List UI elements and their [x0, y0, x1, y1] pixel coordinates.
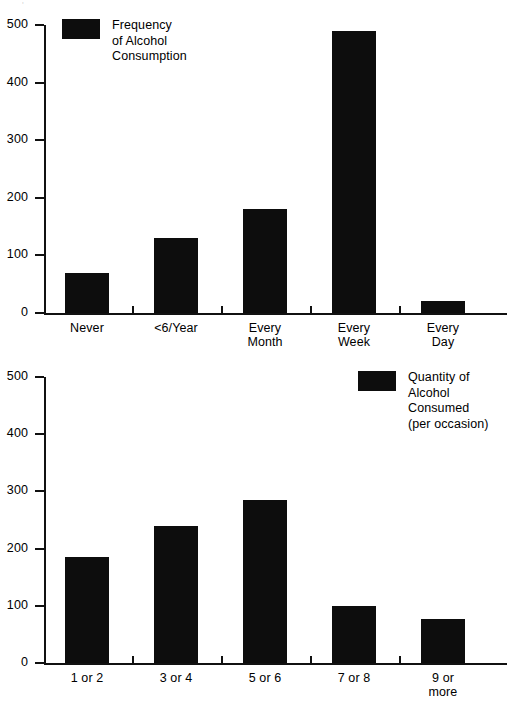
y-tick-label: 300	[0, 484, 28, 496]
y-tick-mark	[35, 548, 44, 550]
chart-frequency-of-alcohol-consumption: ' 0100200300400500 Never<6/YearEvery Mon…	[0, 0, 509, 350]
x-tick-mark	[132, 306, 134, 313]
bar	[154, 238, 198, 313]
y-tick-label: 300	[0, 133, 28, 145]
y-tick-label: 100	[0, 599, 28, 611]
bar	[154, 526, 198, 663]
y-tick-mark	[35, 24, 44, 26]
y-tick-mark	[35, 139, 44, 141]
y-tick-label: 100	[0, 248, 28, 260]
legend-swatch-icon	[358, 371, 396, 391]
y-tick-mark	[35, 82, 44, 84]
y-tick-label: 200	[0, 542, 28, 554]
x-tick-label: 9 or more	[398, 671, 488, 699]
bar	[332, 31, 376, 313]
chart-quantity-of-alcohol-consumed: 0100200300400500 1 or 23 or 45 or 67 or …	[0, 350, 509, 703]
y-tick-label: 0	[0, 306, 28, 318]
x-tick-mark	[310, 306, 312, 313]
y-tick-mark	[35, 197, 44, 199]
x-tick-label: <6/Year	[131, 321, 221, 335]
plot-area-top: 0100200300400500 Never<6/YearEvery Month…	[0, 0, 509, 350]
x-tick-label: 7 or 8	[309, 671, 399, 685]
legend-swatch-icon	[62, 19, 100, 39]
x-tick-label: Every Week	[309, 321, 399, 349]
y-tick-mark	[35, 376, 44, 378]
x-tick-mark	[399, 656, 401, 663]
x-tick-label: Every Month	[220, 321, 310, 349]
x-tick-label: Never	[42, 321, 132, 335]
y-tick-mark	[35, 605, 44, 607]
x-tick-label: 5 or 6	[220, 671, 310, 685]
bar	[65, 273, 109, 313]
x-tick-label: 1 or 2	[42, 671, 132, 685]
x-tick-mark	[399, 306, 401, 313]
bar	[243, 209, 287, 313]
y-tick-mark	[35, 662, 44, 664]
y-tick-mark	[35, 312, 44, 314]
bar	[421, 619, 465, 663]
bar	[421, 301, 465, 313]
y-axis-line-bottom	[44, 377, 46, 665]
y-tick-label: 500	[0, 18, 28, 30]
x-tick-mark	[221, 306, 223, 313]
x-tick-mark	[132, 656, 134, 663]
y-axis-line-top	[44, 25, 46, 315]
legend-bottom: Quantity of Alcohol Consumed (per occasi…	[358, 370, 489, 432]
x-axis-line-bottom	[44, 663, 507, 665]
y-tick-label: 400	[0, 427, 28, 439]
bar	[65, 557, 109, 663]
y-tick-mark	[35, 254, 44, 256]
legend-label-top: Frequency of Alcohol Consumption	[112, 18, 187, 65]
x-tick-label: 3 or 4	[131, 671, 221, 685]
legend-label-bottom: Quantity of Alcohol Consumed (per occasi…	[408, 370, 489, 432]
y-tick-mark	[35, 433, 44, 435]
y-tick-label: 500	[0, 370, 28, 382]
bar	[243, 500, 287, 663]
y-tick-label: 200	[0, 191, 28, 203]
y-tick-mark	[35, 490, 44, 492]
bar	[332, 606, 376, 663]
x-tick-mark	[310, 656, 312, 663]
y-tick-label: 0	[0, 656, 28, 668]
x-axis-line-top	[44, 313, 507, 315]
x-tick-mark	[221, 656, 223, 663]
x-tick-label: Every Day	[398, 321, 488, 349]
y-tick-label: 400	[0, 76, 28, 88]
legend-top: Frequency of Alcohol Consumption	[62, 18, 187, 65]
plot-area-bottom: 0100200300400500 1 or 23 or 45 or 67 or …	[0, 350, 509, 703]
